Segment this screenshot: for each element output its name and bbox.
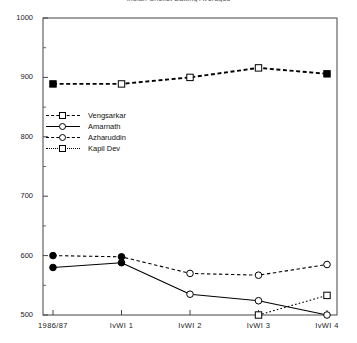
marker-azharuddin-3 <box>255 272 262 279</box>
y-tick-label-600: 600 <box>5 251 33 260</box>
x-tick-label-3: IvWI 3 <box>224 321 294 330</box>
series-line-kapil-dev <box>259 295 328 315</box>
x-tick-label-0: 1986/87 <box>18 321 88 330</box>
marker-azharuddin-1 <box>118 253 125 260</box>
marker-azharuddin-2 <box>187 270 194 277</box>
y-tick-label-500: 500 <box>5 310 33 319</box>
legend-label-azharuddin: Azharuddin <box>88 133 126 142</box>
marker-kapil-dev-4 <box>324 292 330 298</box>
chart-legend: Vengsarkar Amarnath Azharuddin Kapil Dev <box>46 110 164 154</box>
marker-amarnath-0 <box>50 264 57 271</box>
legend-label-vengsarkar: Vengsarkar <box>88 111 126 120</box>
legend-key-vengsarkar <box>46 110 80 121</box>
y-tick-label-700: 700 <box>5 191 33 200</box>
legend-key-kapil-dev <box>46 143 80 154</box>
chart-container: Indian Cricket Batting Averages Vengsark… <box>0 0 357 343</box>
legend-item-amarnath: Amarnath <box>46 121 164 132</box>
x-tick-label-4: IvWI 4 <box>292 321 357 330</box>
marker-kapil-dev-3 <box>255 312 261 318</box>
marker-vengsarkar-1 <box>118 81 124 87</box>
legend-item-vengsarkar: Vengsarkar <box>46 110 164 121</box>
marker-azharuddin-4 <box>324 261 331 268</box>
marker-vengsarkar-0 <box>50 81 56 87</box>
marker-vengsarkar-3 <box>255 65 261 71</box>
y-tick-label-800: 800 <box>5 132 33 141</box>
marker-amarnath-4 <box>324 312 331 319</box>
legend-label-amarnath: Amarnath <box>88 122 121 131</box>
legend-item-azharuddin: Azharuddin <box>46 132 164 143</box>
marker-vengsarkar-2 <box>187 74 193 80</box>
legend-label-kapil-dev: Kapil Dev <box>88 144 120 153</box>
marker-amarnath-3 <box>255 297 262 304</box>
legend-item-kapil-dev: Kapil Dev <box>46 143 164 154</box>
plot-area <box>0 0 357 343</box>
x-tick-label-1: IvWI 1 <box>87 321 157 330</box>
y-tick-label-900: 900 <box>5 72 33 81</box>
marker-amarnath-2 <box>187 291 194 298</box>
marker-vengsarkar-4 <box>324 71 330 77</box>
y-tick-label-1000: 1000 <box>5 13 33 22</box>
marker-azharuddin-0 <box>50 252 57 259</box>
x-tick-label-2: IvWI 2 <box>155 321 225 330</box>
legend-key-amarnath <box>46 121 80 132</box>
legend-key-azharuddin <box>46 132 80 143</box>
